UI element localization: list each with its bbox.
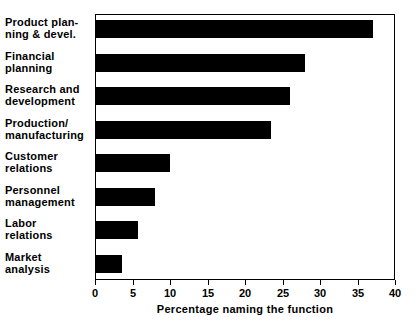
bar bbox=[95, 154, 170, 172]
bar-row bbox=[95, 20, 373, 38]
category-label: Research and development bbox=[5, 83, 89, 107]
x-axis-tick-label: 25 bbox=[271, 287, 295, 299]
category-label: Product plan- ning & devel. bbox=[5, 16, 89, 40]
bar bbox=[95, 221, 138, 239]
x-axis-tick-mark bbox=[170, 280, 171, 285]
x-axis-tick-mark bbox=[358, 280, 359, 285]
bar-row bbox=[95, 87, 290, 105]
x-axis-tick-label: 15 bbox=[196, 287, 220, 299]
bar bbox=[95, 54, 305, 72]
category-label: Customer relations bbox=[5, 150, 89, 174]
bar-row bbox=[95, 154, 170, 172]
x-axis-tick-label: 0 bbox=[83, 287, 107, 299]
x-axis-tick-mark bbox=[95, 280, 96, 285]
x-axis-tick-mark bbox=[320, 280, 321, 285]
bar-row bbox=[95, 221, 138, 239]
x-axis-tick-label: 20 bbox=[233, 287, 257, 299]
category-label: Personnel management bbox=[5, 184, 89, 208]
x-axis-tick-label: 40 bbox=[383, 287, 407, 299]
x-axis-tick-label: 10 bbox=[158, 287, 182, 299]
bar bbox=[95, 121, 271, 139]
x-axis-tick-label: 35 bbox=[346, 287, 370, 299]
x-axis-tick-mark bbox=[208, 280, 209, 285]
x-axis-tick-mark bbox=[133, 280, 134, 285]
bar bbox=[95, 188, 155, 206]
category-label: Financial planning bbox=[5, 50, 89, 74]
category-label: Production/ manufacturing bbox=[5, 117, 89, 141]
x-axis-tick-mark bbox=[395, 280, 396, 285]
category-label: Market analysis bbox=[5, 251, 89, 275]
x-axis-tick-label: 5 bbox=[121, 287, 145, 299]
category-label: Labor relations bbox=[5, 217, 89, 241]
bar bbox=[95, 255, 122, 273]
bar bbox=[95, 87, 290, 105]
bar-chart-figure: Product plan- ning & devel.Financial pla… bbox=[0, 0, 419, 324]
x-axis-tick-mark bbox=[245, 280, 246, 285]
x-axis-tick-label: 30 bbox=[308, 287, 332, 299]
x-axis-title: Percentage naming the function bbox=[95, 303, 395, 316]
bar-row bbox=[95, 255, 122, 273]
x-axis-tick-mark bbox=[283, 280, 284, 285]
bar-row bbox=[95, 54, 305, 72]
bar-row bbox=[95, 121, 271, 139]
bar bbox=[95, 20, 373, 38]
bar-row bbox=[95, 188, 155, 206]
